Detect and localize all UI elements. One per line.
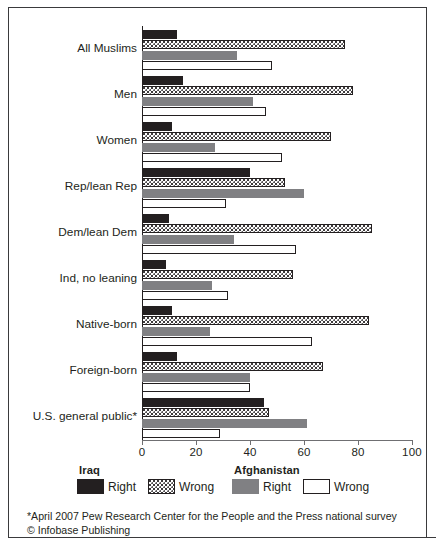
bar-iraq-wrong <box>142 408 269 417</box>
legend-item-iraq-wrong[interactable]: Wrong <box>148 479 214 494</box>
bar-group <box>142 394 412 440</box>
bar-iraq-wrong <box>142 362 323 371</box>
legend-swatch-dots-icon <box>148 479 175 494</box>
category-label: All Muslims <box>17 41 137 55</box>
legend-group-afghanistan: AfghanistanRightWrong <box>232 464 381 494</box>
legend-swatch-gray-icon <box>232 479 259 494</box>
category-label: Ind, no leaning <box>17 271 137 285</box>
bar-afghanistan-wrong <box>142 107 266 116</box>
category-label: Men <box>17 87 137 101</box>
chart-frame: All MuslimsMenWomenRep/lean RepDem/lean … <box>8 7 427 538</box>
bar-afghanistan-right <box>142 189 304 198</box>
category-axis-labels: All MuslimsMenWomenRep/lean RepDem/lean … <box>14 26 137 440</box>
legend-item-afghanistan-right[interactable]: Right <box>232 479 291 494</box>
bar-afghanistan-right <box>142 97 253 106</box>
category-label: Rep/lean Rep <box>17 179 137 193</box>
footnote-1: *April 2007 Pew Research Center for the … <box>27 509 427 523</box>
bar-iraq-right <box>142 30 177 39</box>
bar-afghanistan-wrong <box>142 337 312 346</box>
bar-group <box>142 348 412 394</box>
bar-afghanistan-wrong <box>142 199 226 208</box>
x-axis-tick <box>250 440 251 445</box>
legend-group-title: Iraq <box>77 464 226 476</box>
legend-label: Right <box>108 480 136 494</box>
chart-legend: IraqRightWrongAfghanistanRightWrong <box>17 464 436 506</box>
bar-group <box>142 118 412 164</box>
bar-iraq-right <box>142 168 250 177</box>
x-axis-tick <box>304 440 305 445</box>
bar-group <box>142 26 412 72</box>
bar-afghanistan-right <box>142 373 250 382</box>
legend-items-row: RightWrong <box>232 479 381 494</box>
footnote-block: *April 2007 Pew Research Center for the … <box>27 509 427 537</box>
legend-group-iraq: IraqRightWrong <box>77 464 226 494</box>
legend-swatch-white-icon <box>303 479 330 494</box>
bar-iraq-wrong <box>142 86 353 95</box>
legend-item-iraq-right[interactable]: Right <box>77 479 136 494</box>
bar-iraq-right <box>142 260 166 269</box>
bar-afghanistan-right <box>142 143 215 152</box>
bar-iraq-right <box>142 122 172 131</box>
bar-afghanistan-wrong <box>142 61 272 70</box>
bar-group <box>142 256 412 302</box>
bar-iraq-right <box>142 398 264 407</box>
category-label: Native-born <box>17 317 137 331</box>
bar-afghanistan-wrong <box>142 245 296 254</box>
x-axis-tick-label: 20 <box>176 446 216 458</box>
x-axis-tick-label: 60 <box>284 446 324 458</box>
bar-group <box>142 164 412 210</box>
legend-swatch-black-icon <box>77 479 104 494</box>
category-label: Dem/lean Dem <box>17 225 137 239</box>
bar-iraq-wrong <box>142 316 369 325</box>
bar-afghanistan-right <box>142 51 237 60</box>
bar-afghanistan-right <box>142 327 210 336</box>
bar-afghanistan-right <box>142 419 307 428</box>
x-axis-tick-label: 0 <box>122 446 162 458</box>
legend-label: Right <box>263 480 291 494</box>
legend-label: Wrong <box>179 480 214 494</box>
bar-afghanistan-wrong <box>142 153 282 162</box>
plot-area <box>142 26 412 440</box>
legend-item-afghanistan-wrong[interactable]: Wrong <box>303 479 369 494</box>
x-axis-line <box>142 440 413 441</box>
legend-items-row: RightWrong <box>77 479 226 494</box>
bar-iraq-wrong <box>142 132 331 141</box>
bar-afghanistan-wrong <box>142 291 228 300</box>
x-axis-tick-label: 100 <box>392 446 432 458</box>
x-axis-tick <box>358 440 359 445</box>
bar-iraq-wrong <box>142 270 293 279</box>
bar-afghanistan-right <box>142 235 234 244</box>
bar-iraq-right <box>142 306 172 315</box>
bar-afghanistan-right <box>142 281 212 290</box>
bar-iraq-right <box>142 76 183 85</box>
category-label: Foreign-born <box>17 363 137 377</box>
x-axis-tick-label: 80 <box>338 446 378 458</box>
bar-group <box>142 72 412 118</box>
footnote-2: © Infobase Publishing <box>27 523 427 537</box>
x-axis-tick <box>196 440 197 445</box>
bar-iraq-right <box>142 352 177 361</box>
category-label: U.S. general public* <box>17 409 137 423</box>
x-axis-tick-label: 40 <box>230 446 270 458</box>
legend-group-title: Afghanistan <box>232 464 381 476</box>
footnote-divider <box>17 537 436 538</box>
bar-iraq-right <box>142 214 169 223</box>
legend-label: Wrong <box>334 480 369 494</box>
bar-group <box>142 210 412 256</box>
bar-afghanistan-wrong <box>142 383 250 392</box>
category-label: Women <box>17 133 137 147</box>
x-axis-tick <box>412 440 413 445</box>
bar-group <box>142 302 412 348</box>
bar-iraq-wrong <box>142 224 372 233</box>
bar-iraq-wrong <box>142 178 285 187</box>
bar-afghanistan-wrong <box>142 429 220 438</box>
x-axis-tick <box>142 440 143 445</box>
bar-iraq-wrong <box>142 40 345 49</box>
